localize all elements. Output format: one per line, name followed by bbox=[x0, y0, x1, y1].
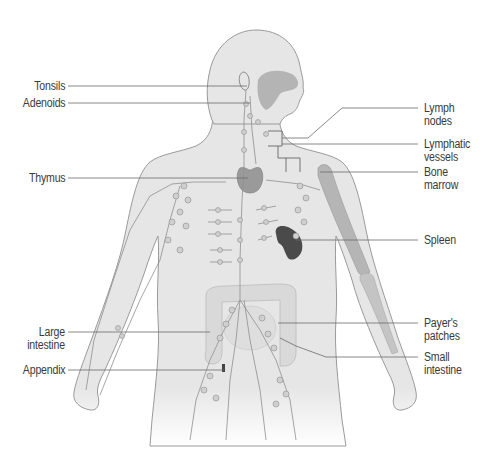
label-thymus: Thymus bbox=[28, 172, 65, 185]
label-appendix-text: Appendix bbox=[22, 364, 65, 377]
label-adenoids-text: Adenoids bbox=[22, 97, 65, 110]
label-payers-patches: Payer's patches bbox=[424, 317, 460, 343]
label-payers-patches-line2: patches bbox=[424, 330, 460, 343]
label-lymph-nodes-line2: nodes bbox=[424, 115, 454, 128]
label-small-intestine: Small intestine bbox=[424, 351, 462, 377]
label-adenoids: Adenoids bbox=[22, 97, 65, 110]
lymphatic-system-diagram bbox=[0, 0, 490, 454]
label-lymphatic-vessels-line2: vessels bbox=[424, 151, 470, 164]
label-spleen: Spleen bbox=[424, 234, 456, 247]
label-bone-marrow: Bone marrow bbox=[424, 166, 458, 192]
label-appendix: Appendix bbox=[22, 364, 65, 377]
label-tonsils-text: Tonsils bbox=[34, 80, 65, 93]
appendix-organ bbox=[222, 364, 225, 372]
label-spleen-text: Spleen bbox=[424, 234, 456, 247]
body-silhouette bbox=[74, 30, 417, 446]
label-thymus-text: Thymus bbox=[28, 172, 65, 185]
label-large-intestine: Large intestine bbox=[27, 326, 65, 352]
label-tonsils: Tonsils bbox=[34, 80, 65, 93]
label-lymph-nodes: Lymph nodes bbox=[424, 102, 454, 128]
label-lymphatic-vessels: Lymphatic vessels bbox=[424, 138, 470, 164]
thymus-organ bbox=[237, 167, 263, 193]
label-bone-marrow-line2: marrow bbox=[424, 179, 458, 192]
label-small-intestine-line2: intestine bbox=[424, 364, 462, 377]
label-large-intestine-line2: intestine bbox=[27, 339, 65, 352]
